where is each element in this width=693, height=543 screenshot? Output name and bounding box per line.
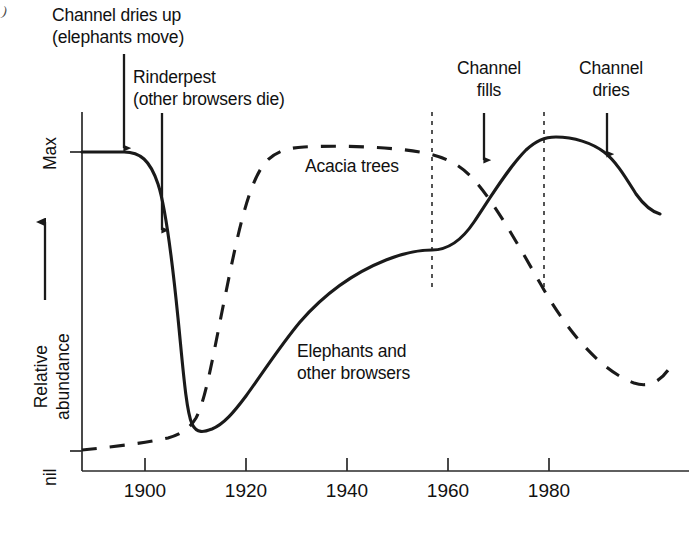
- y-axis-title-line1: Relative: [31, 345, 51, 408]
- y-axis-title-line2: abundance: [53, 333, 73, 420]
- annotation-rinderpest-line2: (other browsers die): [133, 89, 285, 109]
- chart-figure: ): [0, 0, 693, 543]
- x-tick-label-group: 1900 1920 1940 1960 1980: [124, 480, 570, 501]
- annotation-channel-fills: Channelfills: [443, 57, 535, 101]
- annotation-rinderpest: Rinderpest(other browsers die): [133, 66, 285, 110]
- annotation-rinderpest-line1: Rinderpest: [133, 67, 216, 87]
- y-axis-max-label: Max: [40, 137, 61, 170]
- x-tick-label-1900: 1900: [124, 480, 166, 501]
- x-tick-label-1940: 1940: [326, 480, 368, 501]
- annotation-channel-dries-up: Channel dries up(elephants move): [52, 4, 184, 48]
- x-tick-label-1920: 1920: [225, 480, 267, 501]
- y-axis-title: Relativeabundance: [30, 333, 74, 420]
- series-label-elephants: Elephants andother browsers: [297, 340, 477, 384]
- x-tick-label-1980: 1980: [528, 480, 570, 501]
- series-label-elephants-line2: other browsers: [297, 363, 410, 383]
- series-acacia-trees: [82, 146, 672, 450]
- x-tick-label-1960: 1960: [427, 480, 469, 501]
- x-axis-ticks: [145, 458, 549, 471]
- series-elephants-other-browsers: [82, 137, 660, 431]
- annotation-channel-dries-up-line2: (elephants move): [52, 27, 184, 47]
- annotation-channel-dries: Channeldries: [565, 57, 657, 101]
- series-label-elephants-line1: Elephants and: [297, 341, 406, 361]
- annotation-channel-dries-up-line1: Channel dries up: [52, 5, 181, 25]
- y-axis-nil-label: nil: [40, 468, 61, 486]
- annotation-channel-dries-line1: Channel: [579, 58, 643, 78]
- annotation-channel-dries-line2: dries: [593, 80, 630, 100]
- annotation-channel-fills-line2: fills: [477, 80, 501, 100]
- annotation-channel-fills-line1: Channel: [457, 58, 521, 78]
- series-label-acacia-trees: Acacia trees: [305, 155, 399, 177]
